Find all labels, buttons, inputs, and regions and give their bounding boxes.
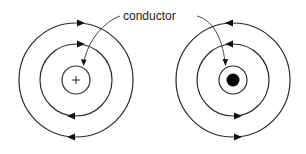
arrow-right-icon xyxy=(234,134,242,141)
arrow-right-icon xyxy=(77,20,85,27)
dot-icon xyxy=(227,74,240,87)
plus-icon xyxy=(72,76,80,84)
arrow-right-icon xyxy=(77,41,85,48)
arrow-left-icon xyxy=(225,20,233,27)
right-conductor-field xyxy=(176,20,290,141)
arrow-left-icon xyxy=(67,113,75,120)
arrow-left-icon xyxy=(225,41,233,48)
arrow-right-icon xyxy=(234,113,242,120)
left-conductor-field xyxy=(19,20,133,141)
conductor-label: conductor xyxy=(123,9,176,23)
magnetic-field-diagram: conductor xyxy=(0,0,306,154)
leader-arrowhead-icon xyxy=(223,59,229,66)
leader-arrowhead-icon xyxy=(81,59,87,66)
arrow-left-icon xyxy=(67,134,75,141)
